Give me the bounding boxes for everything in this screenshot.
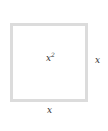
area-label-exponent: 2 bbox=[51, 51, 55, 58]
side-bottom-label: x bbox=[47, 106, 52, 115]
side-right-label: x bbox=[95, 56, 100, 65]
area-label: x2 bbox=[46, 54, 55, 63]
